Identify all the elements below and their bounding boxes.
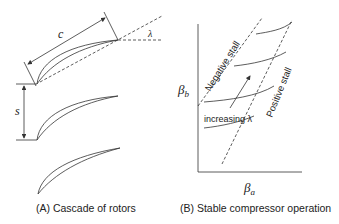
- chord-extension-right: [104, 12, 118, 40]
- increasing-lambda-arrow: [230, 76, 250, 108]
- x-axis-label: βa: [243, 180, 255, 197]
- increasing-lambda-label: increasing λ: [204, 114, 253, 124]
- panel-a-caption: (A) Cascade of rotors: [36, 202, 136, 214]
- rotor-blade-middle: [37, 96, 118, 140]
- cascade-of-rotors-panel: [16, 12, 162, 194]
- stable-operation-panel: [198, 18, 302, 172]
- chord-extension-left: [24, 62, 36, 86]
- rotor-blade-bottom: [38, 148, 120, 194]
- figure: c λ s (A) Cascade of rotors Negative sta…: [0, 0, 339, 224]
- operating-curve-2: [234, 52, 286, 66]
- chord-line-extended: [40, 16, 162, 82]
- y-axis-label: βb: [177, 82, 189, 99]
- chord-label: c: [58, 27, 64, 41]
- panel-b-caption: (B) Stable compressor operation: [180, 202, 331, 214]
- positive-stall-label: Positive stall: [264, 66, 294, 119]
- operating-curve-1: [256, 22, 292, 34]
- stagger-angle-label: λ: [147, 28, 153, 39]
- spacing-label: s: [15, 104, 20, 118]
